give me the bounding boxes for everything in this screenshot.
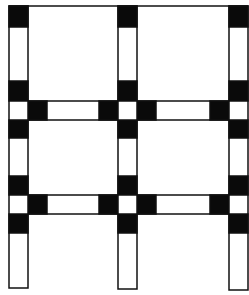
beam-end-joint-block	[210, 101, 229, 120]
beam-end-joint-block	[137, 195, 156, 214]
column-joint-block-below	[118, 214, 137, 233]
beam-end-joint-block	[137, 101, 156, 120]
top-joint-block	[9, 6, 28, 27]
column-joint-block-above	[9, 176, 28, 195]
column-joint-block-below	[118, 120, 137, 138]
structural-frame-drawing	[0, 0, 249, 295]
top-joint-block	[118, 6, 137, 27]
column-joint-block-above	[9, 81, 28, 101]
beam-end-joint-block	[28, 195, 47, 214]
column-joint-block-below	[229, 214, 248, 233]
beam-end-joint-block	[99, 195, 118, 214]
column-right	[229, 6, 248, 290]
column-joint-block-below	[9, 120, 28, 138]
column-joint-block-above	[118, 176, 137, 195]
column-joint-block-above	[229, 81, 248, 101]
top-joint-block	[229, 6, 248, 27]
column-middle	[118, 6, 137, 289]
beam-end-joint-block	[28, 101, 47, 120]
column-joint-block-below	[9, 214, 28, 233]
beam-end-joint-block	[210, 195, 229, 214]
beam-end-joint-block	[99, 101, 118, 120]
column-left	[9, 6, 28, 288]
frame-diagram	[0, 0, 249, 295]
column-joint-block-above	[118, 81, 137, 101]
column-joint-block-below	[229, 120, 248, 138]
column-joint-block-above	[229, 176, 248, 195]
